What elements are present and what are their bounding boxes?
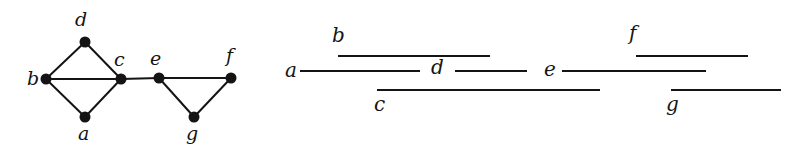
graph-vertex-label-g: g [186,124,198,143]
graph-drawing [0,0,280,156]
graph-edge-group [46,42,231,117]
graph-vertex-label-d: d [75,10,87,29]
interval-label-b: b [332,26,345,45]
graph-vertex-f [226,73,237,84]
graph-vertex-label-f: f [226,46,233,65]
graph-vertex-b [41,74,52,85]
graph-edge-b-a [46,79,85,117]
interval-label-e: e [544,60,556,79]
graph-vertex-e [154,73,165,84]
graph-edge-c-e [121,78,159,79]
graph-edge-b-d [46,42,85,79]
interval-panel: bfadecg [280,0,804,156]
graph-vertex-a [80,112,91,123]
interval-drawing [280,0,804,156]
graph-vertex-label-e: e [150,49,161,68]
graph-edge-g-f [194,78,231,117]
graph-edge-a-c [85,79,121,117]
interval-label-c: c [374,95,385,114]
interval-graph-figure: bdcaefg bfadecg [0,0,804,156]
graph-vertex-d [80,37,91,48]
interval-segment-group [300,56,781,90]
interval-label-d: d [431,58,444,77]
graph-vertex-label-c: c [114,50,125,69]
interval-label-f: f [629,24,636,43]
graph-vertex-g [189,112,200,123]
graph-vertex-label-b: b [27,69,39,88]
interval-label-a: a [285,61,297,80]
graph-vertex-c [116,74,127,85]
graph-panel: bdcaefg [0,0,280,156]
graph-vertex-label-a: a [78,124,89,143]
interval-label-g: g [666,95,679,114]
graph-edge-e-g [159,78,194,117]
